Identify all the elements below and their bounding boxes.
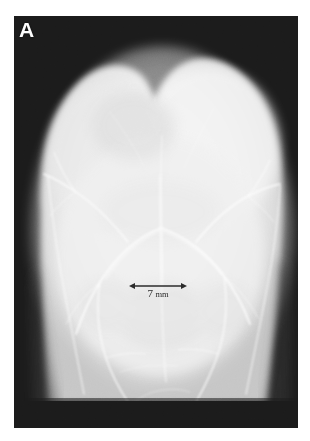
figure-root: A 7 mm (0, 0, 310, 441)
scale-bar-unit: mm (155, 289, 168, 299)
radiograph-plate: A 7 mm (14, 16, 298, 428)
scale-bar-label: 7 mm (128, 288, 188, 300)
scale-bar: 7 mm (128, 280, 188, 306)
panel-label-a: A (19, 19, 34, 40)
skull-radiograph-image (14, 16, 298, 428)
